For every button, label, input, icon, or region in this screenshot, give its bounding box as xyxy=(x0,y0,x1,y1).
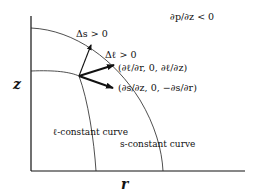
s-curve-label: s-constant curve xyxy=(120,139,195,149)
delta-l-label: Δℓ > 0 xyxy=(105,49,136,60)
grad-l-arrow xyxy=(79,65,114,76)
perp-s-label: (∂s/∂z, 0, −∂s/∂r) xyxy=(118,82,197,93)
perp-s-arrow xyxy=(79,76,113,88)
pressure-condition: ∂p/∂z < 0 xyxy=(170,11,214,22)
grad-l-label: (∂ℓ/∂r, 0, ∂ℓ/∂z) xyxy=(118,62,187,73)
l-curve-label: ℓ-constant curve xyxy=(53,127,128,137)
l-constant-curve xyxy=(31,71,96,171)
delta-s-arrow xyxy=(79,45,91,76)
r-axis-label: r xyxy=(121,176,130,192)
s-constant-curve xyxy=(31,28,163,171)
z-axis-label: z xyxy=(12,76,22,92)
diagram-canvas: z r ∂p/∂z < 0 Δs > 0 Δℓ > 0 (∂ℓ/∂r, 0, ∂… xyxy=(0,0,255,195)
delta-s-label: Δs > 0 xyxy=(76,28,108,39)
